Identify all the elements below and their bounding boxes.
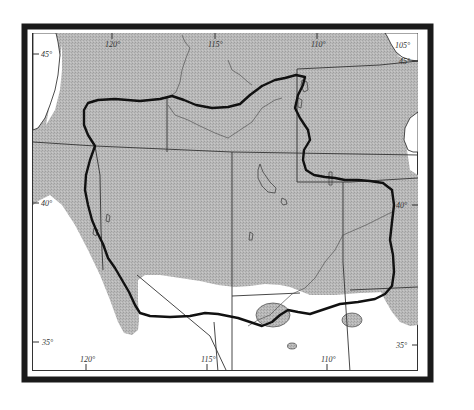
shaded-outlier-2 (342, 313, 362, 327)
lon-label-top-110: 110° (311, 40, 326, 49)
lat-label-right-35: 35° (395, 341, 408, 350)
lon-label-top-120: 120° (105, 40, 121, 49)
lat-label-right-45: 45° (399, 57, 411, 66)
lat-label-left-40: 40° (41, 199, 53, 208)
lon-label-top-105: 105° (395, 41, 411, 50)
lon-label-top-115: 115° (208, 40, 223, 49)
lon-label-bottom-110: 110° (321, 355, 336, 364)
lat-label-right-40: 40° (396, 201, 408, 210)
lat-label-left-35: 35° (41, 338, 54, 347)
lat-label-left-45: 45° (41, 50, 53, 59)
shaded-outlier-1 (256, 303, 290, 327)
range-map: 120° 115° 110° 105° 45° 45° 40° 40° 35° … (0, 0, 474, 410)
lon-label-bottom-120: 120° (80, 355, 96, 364)
shaded-outlier-3 (288, 343, 297, 349)
lon-label-bottom-115: 115° (201, 355, 216, 364)
